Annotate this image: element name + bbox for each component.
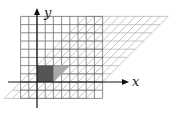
x-axis-label: x (132, 74, 140, 89)
y-arrow-icon (34, 8, 40, 15)
x-arrow-icon (122, 79, 129, 85)
shear-diagram: x y (0, 0, 183, 113)
unit-square (37, 66, 53, 82)
y-axis-label: y (43, 5, 52, 20)
